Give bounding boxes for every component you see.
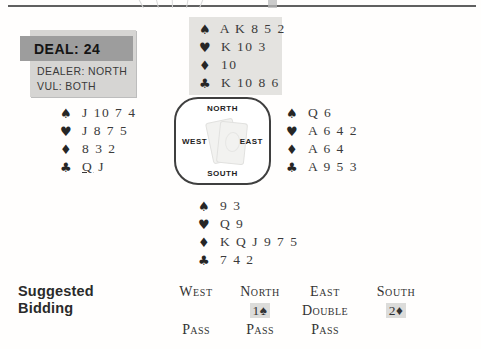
south-hand: ♠ 9 3 ♥ Q 9 ♦ K Q J 9 7 5 ♣ 7 4 2	[198, 197, 298, 269]
east-spades-row: ♠ Q 6	[286, 104, 358, 122]
south-spades-cards: 9 3	[220, 198, 241, 214]
west-spades-cards: J 10 7 4	[82, 105, 136, 121]
south-hearts-cards: Q 9	[220, 216, 244, 232]
east-hand: ♠ Q 6 ♥ A 6 4 2 ♦ A 6 4 ♣ A 9 5 3	[286, 104, 358, 176]
deal-number-label: DEAL: 24	[34, 41, 100, 57]
north-diamonds-cards: 10	[221, 57, 238, 73]
bidding-column-north: North	[229, 284, 291, 303]
fan-line-decoration	[172, 0, 173, 8]
diamond-icon: ♦	[286, 143, 299, 156]
heart-icon: ♥	[199, 41, 212, 54]
east-clubs-cards: A 9 5 3	[308, 159, 358, 175]
west-spades-row: ♠ J 10 7 4	[60, 104, 136, 122]
west-diamonds-row: ♦ 8 3 2	[60, 140, 136, 158]
south-clubs-cards: 7 4 2	[220, 252, 255, 268]
bid-north-round2: Pass	[229, 322, 291, 341]
west-clubs-row: ♣ Q J	[60, 158, 136, 176]
diamond-icon: ♦	[199, 59, 212, 72]
north-hand: ♠ A K 8 5 2 ♥ K 10 3 ♦ 10 ♣ K 10 8 6	[189, 17, 282, 95]
east-clubs-row: ♣ A 9 5 3	[286, 158, 358, 176]
suggested-bidding-heading: Suggested Bidding	[18, 283, 94, 317]
bid-east-round2: Pass	[291, 322, 359, 341]
club-icon: ♣	[199, 77, 212, 90]
bidding-table: West North East South 1♠ Double 2♦ Pass …	[163, 284, 433, 341]
bid-call-2-diamond: 2♦	[386, 303, 407, 318]
north-clubs-row: ♣ K 10 8 6	[199, 74, 282, 92]
south-clubs-row: ♣ 7 4 2	[198, 251, 298, 269]
top-tick-decoration	[268, 0, 277, 8]
bid-call-1-spade: 1♠	[250, 303, 271, 318]
north-diamonds-row: ♦ 10	[199, 56, 282, 74]
bid-south-round1: 2♦	[359, 303, 433, 322]
vulnerability-label: VUL: BOTH	[37, 80, 96, 92]
compass-west-label: WEST	[182, 137, 207, 146]
spade-icon: ♠	[198, 200, 211, 213]
south-spades-row: ♠ 9 3	[198, 197, 298, 215]
heart-icon: ♥	[286, 125, 299, 138]
bridge-deal-page: DEAL: 24 DEALER: NORTH VUL: BOTH ♠ A K 8…	[0, 0, 481, 349]
spade-icon: ♠	[286, 107, 299, 120]
dealer-label: DEALER: NORTH	[37, 65, 127, 77]
heart-icon: ♥	[198, 218, 211, 231]
club-icon: ♣	[60, 161, 73, 174]
suggested-bidding-heading-line1: Suggested	[18, 283, 94, 300]
compass-north-label: NORTH	[207, 104, 238, 113]
east-hearts-row: ♥ A 6 4 2	[286, 122, 358, 140]
south-hearts-row: ♥ Q 9	[198, 215, 298, 233]
diamond-icon: ♦	[198, 236, 211, 249]
top-rule-divider	[8, 5, 476, 7]
east-spades-cards: Q 6	[308, 105, 332, 121]
south-diamonds-cards: K Q J 9 7 5	[220, 234, 298, 250]
compass-diagram: NORTH WEST EAST SOUTH	[174, 97, 271, 185]
east-diamonds-row: ♦ A 6 4	[286, 140, 358, 158]
north-spades-row: ♠ A K 8 5 2	[199, 20, 282, 38]
bid-south-round2	[359, 322, 433, 341]
west-hearts-cards: J 8 7 5	[82, 123, 128, 139]
bid-east-round1: Double	[291, 303, 359, 322]
heart-icon: ♥	[60, 125, 73, 138]
north-clubs-cards: K 10 8 6	[221, 75, 280, 91]
east-diamonds-cards: A 6 4	[308, 141, 345, 157]
bidding-column-west: West	[163, 284, 229, 303]
bid-west-round1	[163, 303, 229, 322]
north-hearts-cards: K 10 3	[221, 39, 267, 55]
bid-north-round1: 1♠	[229, 303, 291, 322]
diamond-icon: ♦	[60, 143, 73, 156]
north-hearts-row: ♥ K 10 3	[199, 38, 282, 56]
west-diamonds-cards: 8 3 2	[82, 141, 117, 157]
club-icon: ♣	[198, 254, 211, 267]
spade-icon: ♠	[60, 107, 73, 120]
deal-number-banner: DEAL: 24	[20, 36, 133, 61]
bidding-column-east: East	[291, 284, 359, 303]
suggested-bidding-heading-line2: Bidding	[18, 300, 94, 317]
west-hearts-row: ♥ J 8 7 5	[60, 122, 136, 140]
north-spades-cards: A K 8 5 2	[220, 21, 286, 37]
bidding-column-south: South	[359, 284, 433, 303]
west-hand: ♠ J 10 7 4 ♥ J 8 7 5 ♦ 8 3 2 ♣ Q J	[60, 104, 136, 176]
club-icon: ♣	[286, 161, 299, 174]
compass-south-label: SOUTH	[207, 169, 238, 178]
south-diamonds-row: ♦ K Q J 9 7 5	[198, 233, 298, 251]
west-clubs-cards-opening-lead: Q J	[82, 159, 105, 175]
compass-east-label: EAST	[240, 137, 263, 146]
spade-icon: ♠	[199, 23, 211, 36]
bid-west-round2: Pass	[163, 322, 229, 341]
east-hearts-cards: A 6 4 2	[308, 123, 358, 139]
